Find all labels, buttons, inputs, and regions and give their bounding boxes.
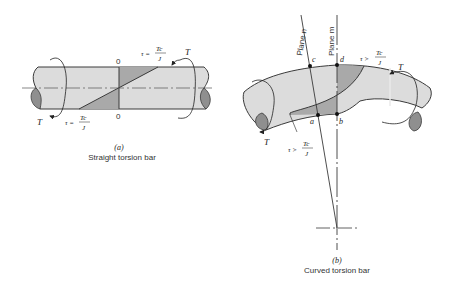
- point-d: [335, 63, 339, 67]
- torque-label-right: T: [185, 47, 191, 57]
- torque-arrow-right-head: [172, 60, 180, 65]
- torque-label-left: T: [37, 117, 43, 127]
- figure-a-caption: Straight torsion bar: [88, 153, 156, 162]
- svg-text:J: J: [158, 55, 162, 63]
- point-d-label: d: [340, 55, 345, 64]
- figure-a-tag: (a): [114, 143, 124, 152]
- svg-text:τ =: τ =: [141, 50, 150, 58]
- section-label-top: 0: [116, 57, 121, 66]
- point-a: [316, 113, 320, 117]
- svg-text:τ =: τ =: [65, 119, 74, 127]
- curved-torque-label-right: T: [398, 62, 404, 72]
- point-c-label: c: [312, 55, 316, 64]
- point-b: [335, 112, 339, 116]
- svg-text:Tc: Tc: [376, 49, 383, 57]
- svg-text:J: J: [82, 124, 86, 132]
- straight-torsion-bar: 0 0 T T τ = Tc J τ = Tc J (a) Straight t…: [22, 45, 214, 162]
- svg-text:Tc: Tc: [156, 45, 163, 53]
- svg-text:τ >: τ >: [288, 146, 297, 154]
- svg-text:τ >: τ >: [360, 55, 369, 63]
- plane-m-label: Plane m: [327, 26, 336, 56]
- point-b-label: b: [339, 117, 343, 126]
- stress-formula-top-b: τ > Tc J: [360, 49, 386, 67]
- torsion-bar-diagram: 0 0 T T τ = Tc J τ = Tc J (a) Straight t…: [0, 0, 454, 283]
- figure-b-caption: Curved torsion bar: [304, 266, 370, 275]
- stress-formula-top-a: τ = Tc J: [141, 45, 166, 63]
- curved-torque-label-left: T: [264, 137, 270, 147]
- svg-text:Tc: Tc: [303, 140, 310, 148]
- point-c: [308, 64, 312, 68]
- svg-text:J: J: [305, 150, 309, 158]
- point-a-label: a: [310, 117, 314, 126]
- plane-n-label: Plane n: [295, 28, 309, 56]
- svg-text:Tc: Tc: [80, 114, 87, 122]
- curved-torsion-bar: c d a b Plane n Plane m T T τ > Tc J τ >…: [243, 15, 431, 275]
- section-label-bottom: 0: [116, 112, 121, 121]
- figure-b-tag: (b): [332, 256, 342, 265]
- stress-formula-bottom-a: τ = Tc J: [65, 114, 90, 132]
- svg-text:J: J: [378, 59, 382, 67]
